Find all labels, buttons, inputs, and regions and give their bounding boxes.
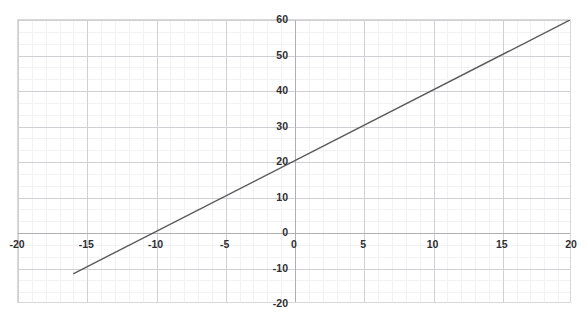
- x-tick-label: 10: [427, 238, 439, 250]
- y-tick-label: -20: [260, 297, 288, 309]
- series-line-layer: [18, 20, 570, 302]
- y-tick-label: 50: [260, 49, 288, 61]
- y-tick-label: 0: [260, 226, 288, 238]
- cropped-header-text: [0, 0, 290, 4]
- y-tick-label: 40: [260, 84, 288, 96]
- y-tick-label: -10: [260, 262, 288, 274]
- plot-area: [17, 19, 571, 303]
- x-tick-label: 0: [291, 238, 297, 250]
- x-tick-label: 5: [360, 238, 366, 250]
- x-tick-label: -15: [79, 238, 94, 250]
- series-line: [73, 20, 570, 274]
- y-tick-label: 20: [260, 155, 288, 167]
- x-tick-label: -5: [220, 238, 229, 250]
- y-tick-label: 60: [260, 13, 288, 25]
- y-tick-label: 30: [260, 120, 288, 132]
- x-tick-label: -10: [148, 238, 163, 250]
- x-tick-label: 20: [565, 238, 577, 250]
- y-tick-label: 10: [260, 191, 288, 203]
- x-tick-label: -20: [9, 238, 24, 250]
- chart-screenshot: -20-15-10-505101520 -20-100102030405060: [0, 0, 588, 316]
- x-tick-label: 15: [496, 238, 508, 250]
